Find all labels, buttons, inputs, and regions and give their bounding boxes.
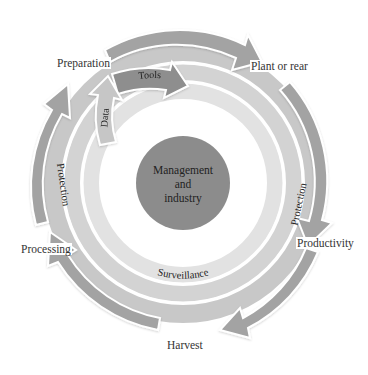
stage-preparation: Preparation <box>56 57 111 69</box>
center-label: Management and industry <box>133 163 233 205</box>
center-line-1: Management <box>133 163 233 177</box>
stage-plant-or-rear: Plant or rear <box>250 60 309 72</box>
center-line-2: and <box>133 177 233 191</box>
stage-productivity: Productivity <box>296 237 355 249</box>
data-label: Data <box>98 107 111 127</box>
center-line-3: industry <box>133 191 233 205</box>
stage-harvest: Harvest <box>166 339 204 351</box>
tools-label: Tools <box>138 69 162 81</box>
stage-processing: Processing <box>20 243 72 255</box>
